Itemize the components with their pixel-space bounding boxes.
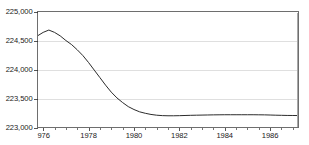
y-tick-label: 223,500 — [6, 94, 33, 103]
line-chart: 223,000223,500224,000224,500225,00097619… — [0, 0, 309, 145]
y-tick-labels: 223,000223,500224,000224,500225,000 — [6, 7, 33, 132]
x-tick-label: 1982 — [171, 131, 188, 140]
plot-frame — [38, 12, 299, 128]
y-tick-label: 223,000 — [6, 123, 33, 132]
plot-frame-rect — [38, 12, 299, 128]
gridlines — [38, 42, 299, 100]
series-line-1 — [38, 30, 299, 116]
chart-canvas: 223,000223,500224,000224,500225,00097619… — [0, 0, 309, 145]
x-tick-label: 976 — [38, 131, 50, 140]
x-tick-labels: 97619781980198219841986 — [38, 131, 279, 140]
y-tickmarks — [34, 13, 38, 129]
x-tick-label: 1980 — [126, 131, 143, 140]
x-tick-label: 1986 — [262, 131, 279, 140]
y-tick-label: 224,500 — [6, 36, 33, 45]
y-tick-label: 224,000 — [6, 65, 33, 74]
x-tick-label: 1978 — [80, 131, 97, 140]
x-tick-label: 1984 — [216, 131, 233, 140]
y-tick-label: 225,000 — [6, 7, 33, 16]
